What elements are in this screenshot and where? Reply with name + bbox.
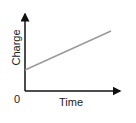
origin-label: 0 [14,94,20,105]
y-axis-label: Charge [11,28,22,68]
chart: Charge Time 0 [0,0,136,123]
charge-line [25,31,111,70]
x-axis-label: Time [59,97,83,108]
